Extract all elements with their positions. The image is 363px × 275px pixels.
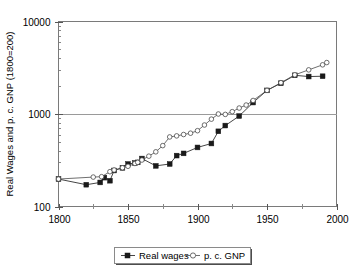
data-point-p-c-gnp: [265, 88, 270, 93]
x-tick-label-1800: 1800: [48, 214, 71, 225]
data-point-p-c-gnp: [154, 150, 159, 155]
data-point-p-c-gnp: [209, 117, 214, 122]
data-point-p-c-gnp: [202, 123, 207, 128]
data-point-p-c-gnp: [251, 98, 256, 103]
data-point-p-c-gnp: [126, 164, 131, 169]
data-point-p-c-gnp: [174, 134, 179, 139]
data-point-real-wages: [216, 129, 221, 134]
x-tick-label-2000: 2000: [326, 214, 349, 225]
data-point-p-c-gnp: [223, 112, 228, 117]
data-point-p-c-gnp: [195, 128, 200, 133]
data-point-real-wages: [209, 141, 214, 146]
data-point-real-wages: [237, 114, 242, 119]
legend: Real wages p. c. GNP: [115, 248, 253, 266]
data-point-real-wages: [153, 163, 158, 168]
legend-label-real-wages: Real wages: [139, 250, 189, 261]
data-point-p-c-gnp: [306, 68, 311, 73]
data-point-p-c-gnp: [279, 80, 284, 85]
x-tick-label-1900: 1900: [187, 214, 210, 225]
data-point-real-wages: [320, 74, 325, 79]
data-point-real-wages: [181, 151, 186, 156]
data-point-real-wages: [223, 123, 228, 128]
data-point-real-wages: [174, 153, 179, 158]
data-point-real-wages: [98, 180, 103, 185]
legend-marker-filled-square: [125, 253, 130, 258]
chart-figure: 100100010000 18001850190019502000 Real W…: [0, 0, 363, 275]
data-point-real-wages: [108, 178, 113, 183]
x-tick-label-1950: 1950: [256, 214, 279, 225]
y-tick-label-10000: 10000: [23, 17, 51, 28]
data-point-p-c-gnp: [188, 131, 193, 136]
data-point-p-c-gnp: [216, 112, 221, 117]
data-point-p-c-gnp: [91, 175, 96, 180]
y-tick-label-100: 100: [34, 202, 51, 213]
data-point-real-wages: [306, 74, 311, 79]
data-point-p-c-gnp: [324, 60, 329, 65]
data-point-p-c-gnp: [56, 177, 61, 182]
y-tick-label-1000: 1000: [28, 109, 51, 120]
chart-canvas: 100100010000 18001850190019502000 Real W…: [0, 0, 363, 275]
data-point-p-c-gnp: [147, 154, 152, 159]
data-point-p-c-gnp: [230, 109, 235, 114]
data-point-p-c-gnp: [112, 168, 117, 173]
chart-background: [0, 0, 363, 275]
legend-marker-open-circle: [190, 253, 195, 258]
data-point-real-wages: [167, 162, 172, 167]
data-point-p-c-gnp: [140, 158, 145, 163]
data-point-p-c-gnp: [167, 135, 172, 140]
data-point-p-c-gnp: [160, 143, 165, 148]
y-axis-title: Real Wages and p. c. GNP (1800=200): [4, 31, 15, 196]
x-tick-label-1850: 1850: [117, 214, 140, 225]
data-point-p-c-gnp: [293, 73, 298, 78]
data-point-p-c-gnp: [244, 103, 249, 108]
data-point-p-c-gnp: [237, 106, 242, 111]
data-point-p-c-gnp: [181, 132, 186, 137]
legend-label-pc-gnp: p. c. GNP: [204, 250, 245, 261]
data-point-real-wages: [195, 145, 200, 150]
data-point-p-c-gnp: [99, 174, 104, 179]
data-point-p-c-gnp: [120, 166, 125, 171]
data-point-real-wages: [84, 182, 89, 187]
